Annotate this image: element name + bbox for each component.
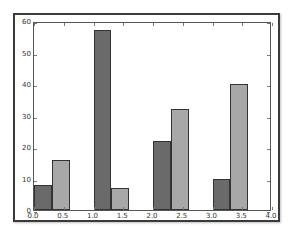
x-tick-mark (272, 207, 273, 210)
y-tick-mark (267, 86, 270, 87)
y-tick-label: 10 (22, 176, 31, 184)
bar-series-1-2 (153, 141, 171, 210)
x-tick-mark (34, 207, 35, 210)
bar-series-1-3 (213, 179, 231, 211)
y-tick-label: 40 (22, 81, 31, 89)
x-tick-mark (213, 207, 214, 210)
x-tick-mark (183, 207, 184, 210)
y-tick-label: 30 (22, 113, 31, 121)
x-tick-mark (123, 207, 124, 210)
x-tick-label: 0.0 (27, 212, 38, 220)
x-tick-label: 4.0 (265, 212, 276, 220)
y-tick-mark (34, 86, 37, 87)
y-tick-mark (34, 181, 37, 182)
y-tick-mark (34, 55, 37, 56)
y-tick-mark (267, 23, 270, 24)
plot-area (33, 22, 271, 211)
x-tick-mark (242, 207, 243, 210)
y-tick-mark (267, 181, 270, 182)
x-tick-mark (183, 23, 184, 26)
bar-series-1-1 (94, 30, 112, 210)
y-tick-label: 20 (22, 144, 31, 152)
y-tick-mark (267, 55, 270, 56)
x-tick-label: 1.0 (87, 212, 98, 220)
y-tick-mark (267, 149, 270, 150)
bar-series-2-3 (230, 84, 248, 210)
x-tick-mark (94, 23, 95, 26)
y-tick-label: 50 (22, 50, 31, 58)
x-tick-mark (64, 207, 65, 210)
y-tick-mark (34, 118, 37, 119)
x-tick-mark (123, 23, 124, 26)
x-tick-label: 2.0 (146, 212, 157, 220)
x-tick-mark (34, 23, 35, 26)
x-tick-label: 3.0 (206, 212, 217, 220)
x-tick-mark (153, 207, 154, 210)
x-tick-mark (153, 23, 154, 26)
y-tick-mark (267, 118, 270, 119)
bar-series-1-0 (34, 185, 52, 210)
y-tick-label: 60 (22, 18, 31, 26)
x-tick-mark (64, 23, 65, 26)
bar-series-2-0 (52, 160, 70, 210)
x-tick-label: 1.5 (117, 212, 128, 220)
bar-series-2-2 (171, 109, 189, 210)
x-tick-mark (94, 207, 95, 210)
x-tick-mark (213, 23, 214, 26)
x-tick-mark (272, 23, 273, 26)
y-tick-mark (34, 149, 37, 150)
x-tick-label: 3.5 (236, 212, 247, 220)
x-tick-label: 2.5 (176, 212, 187, 220)
x-tick-mark (242, 23, 243, 26)
bar-series-2-1 (111, 188, 129, 210)
x-tick-label: 0.5 (57, 212, 68, 220)
